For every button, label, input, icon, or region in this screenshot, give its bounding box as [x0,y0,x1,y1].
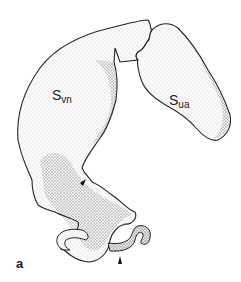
label-sua-sub: ua [178,99,189,110]
label-sua-main: S [169,92,178,108]
label-svn-main: S [52,87,61,103]
panel-label: a [16,256,23,271]
label-svn-sub: vn [61,94,72,105]
arrowhead-lower [118,256,122,264]
sua-shape [136,24,230,141]
label-sua: Sua [169,91,189,109]
svn-shape [18,20,152,262]
stippled-illustration [0,0,241,282]
label-svn: Svn [52,86,72,104]
